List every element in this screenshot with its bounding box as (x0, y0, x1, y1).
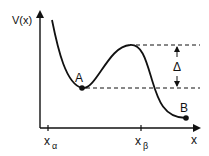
tick-label-x-beta: x β (135, 134, 148, 151)
point-b-label: B (180, 101, 188, 115)
potential-curve (52, 20, 186, 118)
tick-label-x-alpha: x α (44, 134, 57, 151)
potential-energy-diagram: V(x) x A B Δ x α x β (0, 0, 209, 156)
point-b-marker (183, 115, 189, 121)
x-axis-label: x (191, 133, 197, 147)
point-a-label: A (75, 71, 83, 85)
delta-label: Δ (173, 60, 181, 74)
svg-text:x: x (135, 134, 141, 148)
svg-text:α: α (52, 141, 57, 151)
svg-text:x: x (44, 134, 50, 148)
point-a-marker (79, 85, 85, 91)
svg-text:β: β (143, 141, 148, 151)
y-axis-label: V(x) (12, 14, 32, 26)
